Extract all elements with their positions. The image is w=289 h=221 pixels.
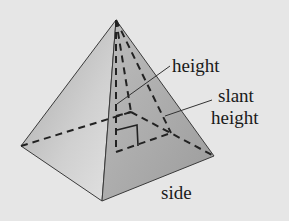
left-face	[21, 20, 116, 201]
slant-label-line1: slant	[218, 85, 255, 106]
slant-label-line2: height	[211, 107, 259, 128]
height-label: height	[172, 55, 220, 76]
side-label: side	[161, 182, 192, 203]
pyramid-diagram: height slant height side	[0, 0, 289, 221]
right-face	[102, 20, 214, 201]
